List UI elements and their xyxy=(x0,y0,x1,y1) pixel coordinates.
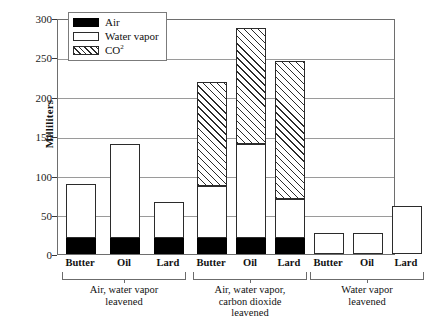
bar-segment-co2 xyxy=(275,61,305,198)
group-label-line: leavened xyxy=(193,307,307,319)
bar-oil-group3[interactable] xyxy=(353,233,383,254)
legend-item-co2: CO2 xyxy=(73,44,159,57)
group-label-line: Air, water vapor, xyxy=(193,284,307,296)
bar-segment-water-vapor xyxy=(275,199,305,239)
bar-segment-co2 xyxy=(197,82,227,186)
bar-butter-group2[interactable] xyxy=(197,82,227,254)
bar-segment-air xyxy=(197,238,227,254)
group-bracket-1 xyxy=(193,272,307,280)
y-tick-150: 150 xyxy=(8,132,52,143)
y-tick-200: 200 xyxy=(8,93,52,104)
bar-lard-group2[interactable] xyxy=(275,61,305,254)
group-label-line: Air, water vapor xyxy=(62,284,186,296)
category-label-lard-group1: Lard xyxy=(145,257,191,268)
bar-segment-water-vapor xyxy=(154,202,184,239)
bar-segment-air xyxy=(236,238,266,254)
group-label-line: leavened xyxy=(62,296,186,308)
legend-label-co2: CO2 xyxy=(105,45,124,56)
bar-butter-group3[interactable] xyxy=(314,233,344,254)
group-label-line: Water vapor xyxy=(310,284,424,296)
group-label-line: leavened xyxy=(310,296,424,308)
legend-label-water-vapor: Water vapor xyxy=(105,31,159,42)
category-label-oil-group1: Oil xyxy=(101,257,147,268)
y-tick-50: 50 xyxy=(8,211,52,222)
group-bracket-2 xyxy=(310,272,424,280)
category-label-lard-group3: Lard xyxy=(383,257,428,268)
bar-butter-group1[interactable] xyxy=(66,184,96,254)
bar-segment-water-vapor xyxy=(353,233,383,254)
bar-segment-water-vapor xyxy=(66,184,96,239)
legend-label-co2-text: CO xyxy=(105,44,120,56)
group-bracket-0 xyxy=(62,272,186,280)
white-swatch-icon xyxy=(73,32,99,41)
y-axis-ticks: 300 250 200 150 100 50 0 xyxy=(6,0,52,325)
legend-label-air: Air xyxy=(105,17,120,28)
group-label-2: Water vaporleavened xyxy=(310,284,424,307)
y-tick-mark-0 xyxy=(52,255,57,256)
y-tick-100: 100 xyxy=(8,172,52,183)
legend-label-co2-sup: 2 xyxy=(120,43,124,51)
group-label-1: Air, water vapor,carbon dioxideleavened xyxy=(193,284,307,319)
hatched-swatch-icon xyxy=(73,46,99,55)
legend-item-air: Air xyxy=(73,16,159,29)
bar-segment-co2 xyxy=(236,28,266,144)
bar-segment-air xyxy=(66,238,96,254)
category-label-butter-group1: Butter xyxy=(57,257,103,268)
bar-lard-group1[interactable] xyxy=(154,202,184,254)
group-label-0: Air, water vaporleavened xyxy=(62,284,186,307)
bar-segment-air xyxy=(110,238,140,254)
bar-oil-group1[interactable] xyxy=(110,144,140,254)
y-tick-250: 250 xyxy=(8,53,52,64)
bar-segment-air xyxy=(275,238,305,254)
bar-segment-water-vapor xyxy=(110,144,140,238)
solid-black-swatch-icon xyxy=(73,18,99,27)
bar-segment-water-vapor xyxy=(236,144,266,238)
bar-segment-water-vapor xyxy=(197,186,227,238)
legend-item-water-vapor: Water vapor xyxy=(73,30,159,43)
bar-oil-group2[interactable] xyxy=(236,28,266,254)
group-label-line: carbon dioxide xyxy=(193,296,307,308)
legend: Air Water vapor CO2 xyxy=(68,12,167,61)
bar-lard-group3[interactable] xyxy=(392,206,422,254)
y-tick-300: 300 xyxy=(8,14,52,25)
y-tick-0: 0 xyxy=(8,250,52,261)
bar-segment-water-vapor xyxy=(392,206,422,254)
bar-segment-air xyxy=(154,238,184,254)
bar-segment-water-vapor xyxy=(314,233,344,254)
